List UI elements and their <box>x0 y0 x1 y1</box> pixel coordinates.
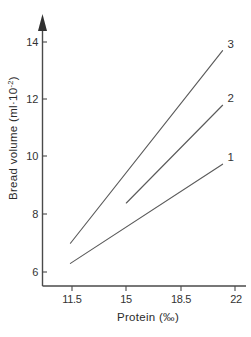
y-axis-title-main: Bread volume (ml·10 <box>7 88 19 200</box>
series-lines <box>70 51 222 264</box>
y-axis <box>38 14 47 286</box>
x-axis-title-tail: ) <box>175 311 179 323</box>
series-label-2: 2 <box>228 92 234 104</box>
x-tick-label-11-5: 11.5 <box>62 293 82 305</box>
figure-container: 6 8 10 12 14 11.5 15 18.5 22 1 2 3 Bread… <box>0 0 251 337</box>
x-tick-label-15: 15 <box>120 293 132 305</box>
y-tick-label-6: 6 <box>32 266 38 278</box>
x-tick-label-18-5: 18.5 <box>171 293 191 305</box>
y-axis-title: Bread volume (ml·10-2) <box>6 76 19 200</box>
series-labels: 1 2 3 <box>228 38 234 164</box>
series-label-1: 1 <box>228 151 234 163</box>
y-axis-title-tail: ) <box>7 76 19 80</box>
y-tick-label-14: 14 <box>26 36 38 48</box>
y-tick-label-12: 12 <box>26 93 38 105</box>
x-axis-title-permille: ‰ <box>163 311 175 323</box>
x-tick-label-22: 22 <box>230 293 242 305</box>
line-chart: 6 8 10 12 14 11.5 15 18.5 22 1 2 3 Bread… <box>0 0 251 337</box>
x-axis-title: Protein (‰) <box>117 311 179 323</box>
y-axis-title-superscript: -2 <box>6 80 15 87</box>
y-tick-label-8: 8 <box>32 208 38 220</box>
x-axis-title-main: Protein ( <box>117 311 163 323</box>
x-tick-marks <box>72 286 235 291</box>
y-tick-label-10: 10 <box>26 150 38 162</box>
y-axis-arrowhead <box>38 14 47 31</box>
series-label-3: 3 <box>228 38 234 50</box>
